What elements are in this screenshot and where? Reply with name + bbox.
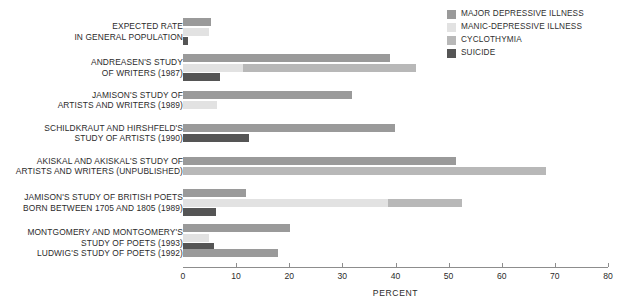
bar-segment xyxy=(183,157,456,165)
bar-group: LUDWIG'S STUDY OF POETS (1992) xyxy=(0,249,620,257)
bar-group: JAMISON'S STUDY OF BRITISH POETS BORN BE… xyxy=(0,189,620,216)
bar-segment xyxy=(183,18,211,26)
x-axis-tick-label: 60 xyxy=(490,271,514,281)
bar-segment xyxy=(183,167,546,175)
bar-group: AKISKAL AND AKISKAL'S STUDY OF ARTISTS A… xyxy=(0,157,620,175)
bar-segment xyxy=(183,54,390,62)
category-label: JAMISON'S STUDY OF ARTISTS AND WRITERS (… xyxy=(58,90,183,110)
x-axis-tick xyxy=(449,263,450,267)
bar-segment xyxy=(183,189,246,197)
x-axis-tick-label: 80 xyxy=(596,271,620,281)
bar-segment xyxy=(183,224,290,232)
bar-segment xyxy=(183,64,243,72)
bar-group: JAMISON'S STUDY OF ARTISTS AND WRITERS (… xyxy=(0,91,620,109)
x-axis-tick-label: 20 xyxy=(277,271,301,281)
x-axis-tick-label: 50 xyxy=(437,271,461,281)
bar-segment xyxy=(183,249,278,257)
bar-segment xyxy=(183,208,216,216)
x-axis-tick-label: 0 xyxy=(171,271,195,281)
bar-segment xyxy=(183,124,395,132)
x-axis-tick xyxy=(236,263,237,267)
x-axis-tick xyxy=(289,263,290,267)
bar-segment xyxy=(183,234,209,242)
bar-segment xyxy=(183,101,217,109)
bar-chart: MAJOR DEPRESSIVE ILLNESSMANIC-DEPRESSIVE… xyxy=(0,0,620,305)
category-label: ANDREASEN'S STUDY OF WRITERS (1987) xyxy=(91,57,183,77)
x-axis-line xyxy=(183,267,608,268)
bar-segment xyxy=(183,134,249,142)
x-axis-tick-label: 10 xyxy=(224,271,248,281)
bar-segment xyxy=(183,91,352,99)
x-axis-tick xyxy=(555,263,556,267)
bar-group: SCHILDKRAUT AND HIRSHFELD'S STUDY OF ART… xyxy=(0,124,620,142)
category-label: JAMISON'S STUDY OF BRITISH POETS BORN BE… xyxy=(23,192,183,212)
x-axis-tick xyxy=(502,263,503,267)
x-axis-tick xyxy=(342,263,343,267)
category-label: MONTGOMERY AND MONTGOMERY'S STUDY OF POE… xyxy=(27,227,183,247)
bar-group: EXPECTED RATE IN GENERAL POPULATION xyxy=(0,18,620,45)
x-axis-tick-label: 70 xyxy=(543,271,567,281)
bar-group: ANDREASEN'S STUDY OF WRITERS (1987) xyxy=(0,54,620,81)
x-axis-tick-label: 40 xyxy=(384,271,408,281)
bar-segment xyxy=(388,199,462,207)
bar-segment xyxy=(183,37,188,45)
plot-area: EXPECTED RATE IN GENERAL POPULATIONANDRE… xyxy=(0,0,620,305)
category-label: AKISKAL AND AKISKAL'S STUDY OF ARTISTS A… xyxy=(16,156,183,176)
category-label: EXPECTED RATE IN GENERAL POPULATION xyxy=(74,21,183,41)
bar-segment xyxy=(183,199,388,207)
category-label: SCHILDKRAUT AND HIRSHFELD'S STUDY OF ART… xyxy=(44,123,183,143)
x-axis-tick xyxy=(608,263,609,267)
bar-segment xyxy=(183,73,220,81)
x-axis-title: PERCENT xyxy=(336,288,456,298)
x-axis-tick-label: 30 xyxy=(330,271,354,281)
x-axis-tick xyxy=(396,263,397,267)
bar-segment xyxy=(243,64,416,72)
bar-segment xyxy=(183,28,209,36)
category-label: LUDWIG'S STUDY OF POETS (1992) xyxy=(37,248,183,258)
